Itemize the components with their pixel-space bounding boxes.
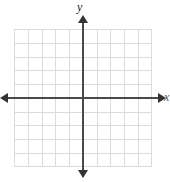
arrow-up-icon (78, 15, 88, 23)
x-axis-label: x (164, 91, 169, 103)
y-axis-line (82, 22, 84, 177)
arrow-left-icon (0, 93, 8, 103)
coordinate-plane-figure: y x (0, 0, 170, 182)
arrow-down-icon (78, 170, 88, 178)
y-axis-label: y (77, 1, 82, 13)
